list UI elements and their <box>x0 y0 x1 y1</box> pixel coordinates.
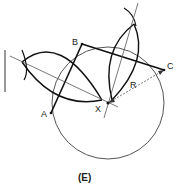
point-c-marker <box>163 69 166 72</box>
label-a: A <box>41 109 47 119</box>
segment-ab <box>51 44 82 113</box>
point-x-marker <box>107 102 110 105</box>
label-x: X <box>95 104 101 114</box>
label-r: R <box>130 80 137 90</box>
arc-ab-1 <box>22 52 102 100</box>
point-b-marker <box>81 43 84 46</box>
bisector-ab <box>10 56 118 107</box>
segment-bc <box>82 44 164 70</box>
label-c: C <box>167 61 174 71</box>
figure-caption: (E) <box>78 172 91 183</box>
construction-diagram: A B C X R (E) <box>0 0 177 184</box>
point-a-marker <box>50 112 53 115</box>
label-b: B <box>72 37 78 47</box>
